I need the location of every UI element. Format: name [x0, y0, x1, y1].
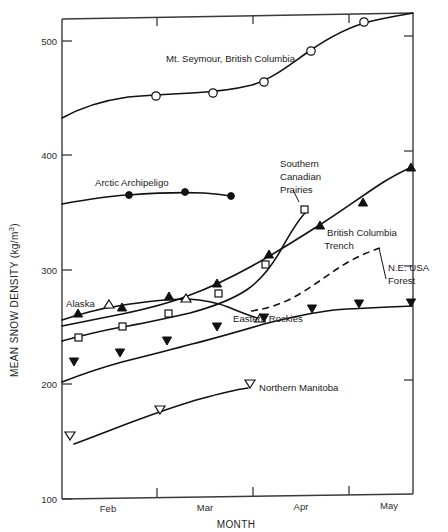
y-axis-ticks-right [404, 36, 413, 380]
series-label-eastern-rockies: Eastern Rockies [233, 313, 303, 324]
y-tick-100: 100 [41, 494, 57, 505]
y-tick-400: 400 [41, 150, 57, 161]
series-label-mt-seymour: Mt. Seymour, British Columbia [166, 53, 296, 64]
series-label-bc-trench-line2: Trench [324, 240, 354, 251]
series-label-alaska: Alaska [66, 298, 95, 309]
axis-bottom [62, 494, 413, 499]
y-axis-title-close: ) [9, 223, 20, 227]
y-tick-200: 200 [41, 379, 57, 390]
y-axis-title: MEAN SNOW DENSITY (kg/m3) [7, 223, 20, 377]
series-northern-manitoba: Northern Manitoba [65, 380, 339, 444]
series-label-bc-trench-line1: British Columbia [327, 227, 398, 238]
x-tick-mar: Mar [197, 502, 213, 513]
series-label-ne-usa-line2: Forest [388, 275, 416, 286]
series-label-prairies-line2: Canadian [280, 171, 321, 182]
snow-density-line-chart: 500 400 300 200 100 Feb Mar Apr May MONT… [0, 0, 448, 532]
series-line-arctic [62, 193, 231, 204]
x-axis-ticks [157, 14, 349, 497]
svg-text:MEAN SNOW DENSITY (kg/m3): MEAN SNOW DENSITY (kg/m3) [7, 223, 20, 377]
x-axis-tick-labels: Feb Mar Apr May [100, 500, 398, 514]
x-tick-may: May [380, 500, 398, 511]
chart-figure: 500 400 300 200 100 Feb Mar Apr May MONT… [0, 0, 448, 532]
series-label-northern-manitoba: Northern Manitoba [259, 382, 339, 393]
series-markers-northern-manitoba [65, 380, 255, 440]
x-tick-feb: Feb [100, 503, 116, 514]
series-ne-usa-forest: N.E. USA Forest [251, 248, 430, 311]
y-tick-300: 300 [41, 265, 57, 276]
axis-top [62, 13, 413, 19]
y-axis-tick-labels: 500 400 300 200 100 [41, 36, 57, 505]
series-line-mt-seymour [62, 13, 413, 118]
x-tick-apr: Apr [294, 501, 309, 512]
series-label-ne-usa-line1: N.E. USA [388, 262, 430, 273]
series-mt-seymour: Mt. Seymour, British Columbia [62, 13, 413, 118]
series-label-prairies-line1: Southern [280, 158, 319, 169]
y-tick-500: 500 [41, 36, 57, 47]
series-arctic-archipeligo: Arctic Archipeligo [62, 177, 234, 204]
series-label-arctic: Arctic Archipeligo [95, 177, 169, 188]
y-axis-title-main: MEAN SNOW DENSITY (kg/m [9, 231, 20, 377]
y-axis-ticks-left [62, 41, 72, 499]
series-label-prairies-line3: Prairies [280, 184, 313, 195]
series-leader-ne-usa-forest [379, 248, 386, 279]
series-line-northern-manitoba [74, 388, 248, 444]
x-axis-title: MONTH [217, 519, 256, 530]
plot-frame [62, 13, 413, 499]
